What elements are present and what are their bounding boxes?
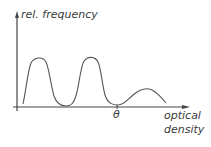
distribution-curve <box>23 57 166 106</box>
frequency-diagram: rel. frequency θ optical density <box>0 0 211 147</box>
threshold-label: θ <box>113 109 120 121</box>
y-axis-label: rel. frequency <box>21 9 98 21</box>
y-axis-arrow-icon <box>15 11 19 18</box>
x-axis-label-line2: density <box>164 124 204 136</box>
x-axis-label-line1: optical <box>164 110 201 122</box>
